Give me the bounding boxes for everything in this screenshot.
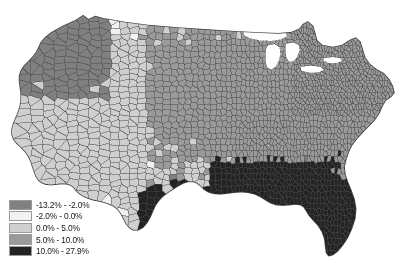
choropleth-figure: -13.2% - -2.0% -2.0% - 0.0% 0.0% - 5.0% … [0,0,416,269]
map-legend: -13.2% - -2.0% -2.0% - 0.0% 0.0% - 5.0% … [9,199,113,257]
legend-swatch-class-2 [9,211,32,221]
legend-label-class-3: 0.0% - 5.0% [36,223,80,233]
legend-swatch-class-3 [9,223,32,233]
legend-swatch-class-4 [9,234,32,244]
legend-label-class-1: -13.2% - -2.0% [36,200,90,210]
legend-item: -13.2% - -2.0% [9,199,113,211]
legend-swatch-class-1 [9,200,32,210]
legend-item: 10.0% - 27.9% [9,245,113,257]
legend-item: 0.0% - 5.0% [9,222,113,234]
legend-label-class-4: 5.0% - 10.0% [36,235,84,245]
legend-label-class-5: 10.0% - 27.9% [36,246,89,256]
legend-label-class-2: -2.0% - 0.0% [36,211,82,221]
legend-item: -2.0% - 0.0% [9,211,113,223]
legend-swatch-class-5 [9,246,32,256]
legend-item: 5.0% - 10.0% [9,234,113,246]
